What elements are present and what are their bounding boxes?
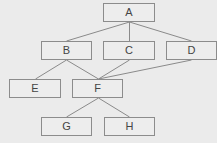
node-c-label: C (125, 45, 133, 56)
node-h-label: H (126, 121, 134, 132)
node-e-label: E (31, 83, 38, 94)
node-g-label: G (62, 121, 71, 132)
node-c: C (103, 41, 155, 60)
edge-b-f (67, 60, 99, 79)
node-d: D (166, 41, 217, 60)
node-e: E (9, 79, 61, 98)
edge-d-f (99, 60, 192, 79)
node-a-label: A (125, 7, 132, 18)
edge-f-h (99, 98, 130, 117)
node-d-label: D (188, 45, 196, 56)
node-g: G (41, 117, 92, 136)
edge-a-d (130, 22, 192, 41)
node-f-label: F (94, 83, 101, 94)
edge-a-b (67, 22, 130, 41)
node-a: A (103, 3, 155, 22)
edge-b-e (36, 60, 67, 79)
hierarchy-diagram: A B C D E F G H (0, 0, 217, 143)
node-b-label: B (63, 45, 70, 56)
node-h: H (104, 117, 155, 136)
edge-f-g (67, 98, 99, 117)
node-b: B (41, 41, 92, 60)
node-f: F (72, 79, 123, 98)
